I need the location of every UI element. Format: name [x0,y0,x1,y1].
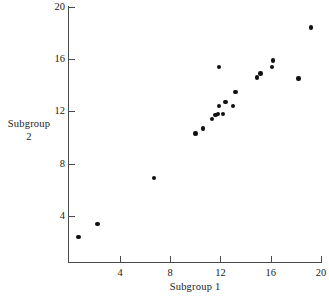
data-points-layer [0,0,329,300]
data-point [216,112,220,116]
data-point [201,126,205,130]
data-point [255,75,259,79]
data-point [221,112,225,116]
y-axis-title-line-2: 2 [0,131,58,144]
data-point [231,104,235,108]
data-point [217,65,221,69]
data-point [233,90,237,94]
y-axis-title-line-1: Subgroup [8,118,50,129]
data-point [210,117,214,121]
data-point [309,25,313,29]
data-point [217,104,221,108]
data-point [271,58,275,62]
x-axis-title: Subgroup 1 [68,281,322,293]
data-point [258,71,262,75]
data-point [95,222,99,226]
scatter-plot-figure: 48121620 48121620 Subgroup 2 Subgroup 1 [0,0,329,300]
y-axis-title: Subgroup 2 [0,118,58,143]
data-point [76,235,80,239]
data-point [193,131,197,135]
data-point [223,100,227,104]
data-point [270,65,274,69]
data-point [296,76,300,80]
data-point [152,176,156,180]
